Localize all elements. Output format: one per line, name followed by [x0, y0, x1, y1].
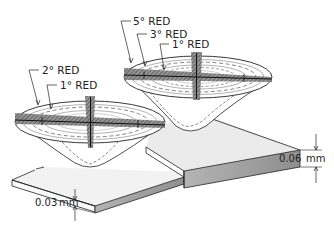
- label-left-1-red: 1° RED: [60, 79, 97, 91]
- thick-dimension-value: 0.06: [279, 153, 301, 164]
- label-right-1-red: 1° RED: [172, 38, 209, 50]
- label-left-2-red: 2° RED: [42, 64, 79, 76]
- left-lens: [15, 96, 165, 167]
- thick-dimension-unit: mm: [306, 153, 325, 164]
- thin-dimension-value: 0.03: [35, 197, 57, 208]
- thick-dimension: 0.06 mm: [279, 134, 325, 183]
- thin-dimension-unit: mm: [59, 197, 78, 208]
- label-right-5-red: 5° RED: [133, 15, 170, 27]
- lens-slab-diagram: 2° RED 1° RED 5° RED 3° RED 1° RED 0.06 …: [0, 0, 334, 232]
